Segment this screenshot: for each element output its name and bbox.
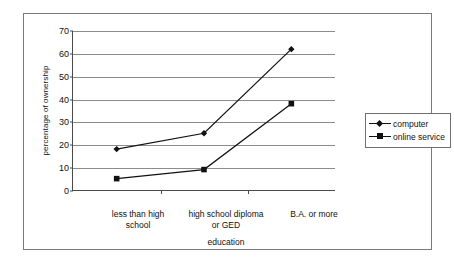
data-point-square xyxy=(201,167,207,173)
data-point-diamond xyxy=(113,146,119,152)
legend-entry-computer: computer xyxy=(369,117,447,130)
legend-label: computer xyxy=(391,119,428,129)
chart-frame: percentage of ownership 010203040506070 … xyxy=(23,13,432,250)
chart-figure: percentage of ownership 010203040506070 … xyxy=(0,0,454,268)
y-axis-tick-label: 10 xyxy=(59,164,69,173)
y-axis-tick-mark xyxy=(70,191,73,192)
data-point-square xyxy=(114,176,120,182)
y-axis-tick-label: 50 xyxy=(59,72,69,81)
legend-label: online service xyxy=(391,132,445,142)
plot-area: 010203040506070 xyxy=(72,31,335,191)
y-axis-tick-label: 30 xyxy=(59,118,69,127)
data-point-square xyxy=(289,101,295,107)
diamond-marker-icon xyxy=(369,118,391,129)
y-axis-title: percentage of ownership xyxy=(41,46,50,176)
series-plot xyxy=(73,31,335,190)
y-axis-tick-label: 0 xyxy=(64,187,69,196)
x-axis-title: education xyxy=(134,237,318,247)
square-marker-icon xyxy=(369,131,391,142)
x-axis-tick-mark xyxy=(161,190,162,194)
y-axis-tick-label: 40 xyxy=(59,95,69,104)
legend-entry-online-service: online service xyxy=(369,130,447,143)
x-axis-category-label: B.A. or more xyxy=(262,209,366,220)
chart-legend: computer online service xyxy=(365,113,451,148)
y-axis-tick-label: 20 xyxy=(59,141,69,150)
x-axis-category-label-line1: B.A. or more xyxy=(262,209,366,220)
y-axis-tick-label: 70 xyxy=(59,27,69,36)
x-axis-category-label-line2: or GED xyxy=(174,220,278,231)
x-axis-tick-mark xyxy=(248,190,249,194)
y-axis-tick-label: 60 xyxy=(59,49,69,58)
